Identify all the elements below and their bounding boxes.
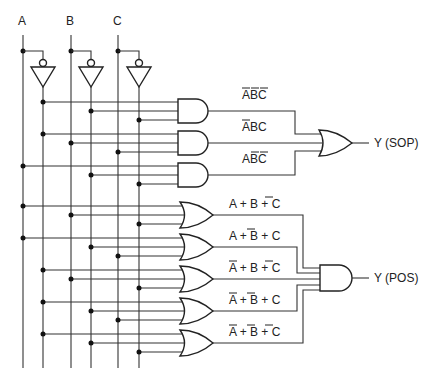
- pos-term-label-1: A + B + C: [229, 197, 281, 211]
- and-gate-pos: [320, 265, 352, 291]
- or-gate-pos-4: [180, 298, 213, 324]
- input-label-b: B: [66, 14, 74, 28]
- svg-text:A + B + C: A + B + C: [229, 229, 281, 243]
- inverter-c: [116, 49, 152, 88]
- svg-text:A + B + C: A + B + C: [229, 325, 281, 339]
- svg-text:A + B + C: A + B + C: [229, 197, 281, 211]
- input-label-c: C: [113, 14, 122, 28]
- and-gate-sop-3: [178, 163, 208, 187]
- logic-circuit-diagram: A B C: [0, 0, 441, 386]
- or-gate-pos-2: [180, 234, 213, 260]
- svg-text:A + B + C: A + B + C: [229, 261, 281, 275]
- inverter-a: [21, 49, 56, 88]
- or-gate-pos-3: [180, 266, 213, 292]
- pos-term-label-2: A + B + C: [229, 229, 281, 243]
- and-gate-sop-1: [178, 99, 208, 123]
- svg-text:ABC: ABC: [242, 120, 267, 134]
- or-gate-pos-1: [180, 202, 213, 228]
- sop-term-label-2: ABC: [242, 120, 267, 134]
- sop-input-wires: [21, 100, 179, 187]
- and-gate-sop-2: [178, 131, 208, 155]
- inverter-b: [69, 49, 104, 88]
- pos-output-label: Y (POS): [374, 271, 418, 285]
- pos-input-wires: [21, 204, 187, 355]
- pos-term-label-3: A + B + C: [229, 261, 281, 275]
- sop-output-label: Y (SOP): [374, 136, 418, 150]
- or-gate-pos-5: [180, 330, 213, 356]
- sop-term-label-3: ABC: [242, 152, 268, 166]
- sop-term-label-1: ABC: [242, 88, 268, 102]
- or-gate-sop: [319, 130, 352, 156]
- input-label-a: A: [18, 14, 26, 28]
- input-buses: [23, 35, 139, 368]
- svg-text:A + B + C: A + B + C: [229, 293, 281, 307]
- pos-term-label-4: A + B + C: [229, 293, 281, 307]
- svg-text:ABC: ABC: [242, 88, 267, 102]
- svg-text:ABC: ABC: [242, 152, 267, 166]
- pos-term-label-5: A + B + C: [229, 325, 281, 339]
